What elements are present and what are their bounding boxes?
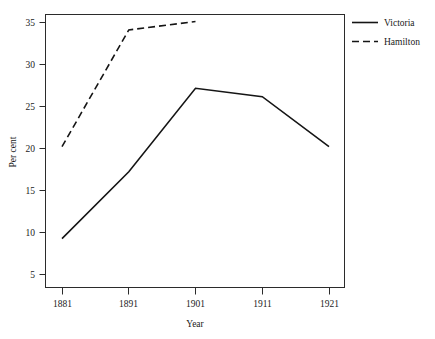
x-tick-label: 1901 [186, 299, 205, 309]
y-tick-label: 5 [30, 270, 35, 280]
series-line-victoria [62, 88, 329, 238]
y-tick-35: 35 [26, 18, 46, 28]
legend-label-hamilton: Hamilton [384, 37, 420, 47]
x-axis-title: Year [186, 319, 204, 329]
y-tick-25: 25 [26, 102, 46, 112]
x-tick-1901: 1901 [186, 288, 205, 310]
series-line-hamilton [62, 22, 196, 147]
y-tick-label: 20 [26, 144, 36, 154]
line-chart: 35 30 25 20 15 10 [0, 0, 435, 339]
y-axis: 35 30 25 20 15 10 [26, 18, 46, 280]
x-tick-1911: 1911 [253, 288, 272, 310]
y-tick-label: 25 [26, 102, 36, 112]
y-tick-label: 15 [26, 186, 36, 196]
y-tick-10: 10 [26, 228, 46, 238]
x-tick-1891: 1891 [119, 288, 138, 310]
x-tick-label: 1881 [53, 299, 72, 309]
y-tick-20: 20 [26, 144, 46, 154]
x-tick-label: 1921 [320, 299, 339, 309]
x-tick-label: 1891 [119, 299, 138, 309]
y-tick-label: 10 [26, 228, 36, 238]
x-axis: 1881 1891 1901 1911 1921 [53, 288, 339, 310]
x-tick-1881: 1881 [53, 288, 72, 310]
y-axis-title: Per cent [8, 136, 18, 167]
plot-frame [46, 15, 345, 288]
y-tick-15: 15 [26, 186, 46, 196]
y-tick-5: 5 [30, 270, 45, 280]
x-tick-label: 1911 [253, 299, 272, 309]
figure-container: 35 30 25 20 15 10 [0, 0, 435, 339]
y-tick-label: 35 [26, 18, 36, 28]
y-tick-label: 30 [26, 60, 36, 70]
legend-label-victoria: Victoria [384, 18, 415, 28]
chart-legend: Victoria Hamilton [352, 18, 420, 47]
y-tick-30: 30 [26, 60, 46, 70]
x-tick-1921: 1921 [320, 288, 339, 310]
